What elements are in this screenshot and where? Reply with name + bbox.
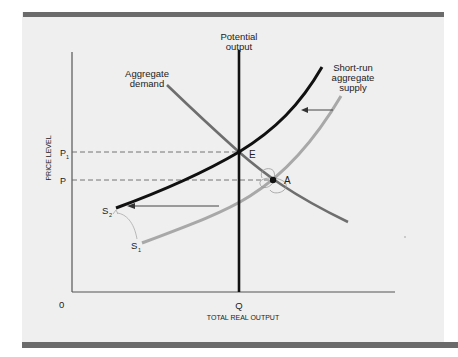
s2-label: S: [102, 205, 108, 216]
origin-label: 0: [59, 299, 64, 310]
s2-subscript: 2: [109, 212, 112, 218]
supply-curve-s1: [142, 96, 341, 243]
q-tick-label: Q: [235, 300, 242, 311]
sras-label-3: supply: [339, 82, 367, 93]
s1-label: S: [131, 240, 137, 251]
stray-speck: [404, 236, 405, 237]
aggregate-demand-curve: [167, 85, 348, 222]
pencil-mark-curve: [117, 213, 137, 239]
point-a-marker: [270, 177, 276, 183]
y-axis-title: PRICE LEVEL: [45, 135, 52, 180]
aggregate-demand-label-2: demand: [130, 78, 164, 89]
point-e-marker: [237, 150, 241, 154]
potential-output-label-2: output: [226, 41, 253, 52]
s1-subscript: 1: [138, 247, 141, 253]
x-axis-title: TOTAL REAL OUTPUT: [207, 314, 280, 321]
arrowhead-left-icon: [301, 107, 308, 113]
point-e-label: E: [249, 149, 256, 160]
p-tick-label: P: [60, 176, 66, 186]
supply-demand-chart: Potential output Aggregate demand Short-…: [0, 0, 458, 357]
p1-tick-subscript: 1: [66, 154, 69, 160]
point-a-label: A: [284, 175, 291, 186]
